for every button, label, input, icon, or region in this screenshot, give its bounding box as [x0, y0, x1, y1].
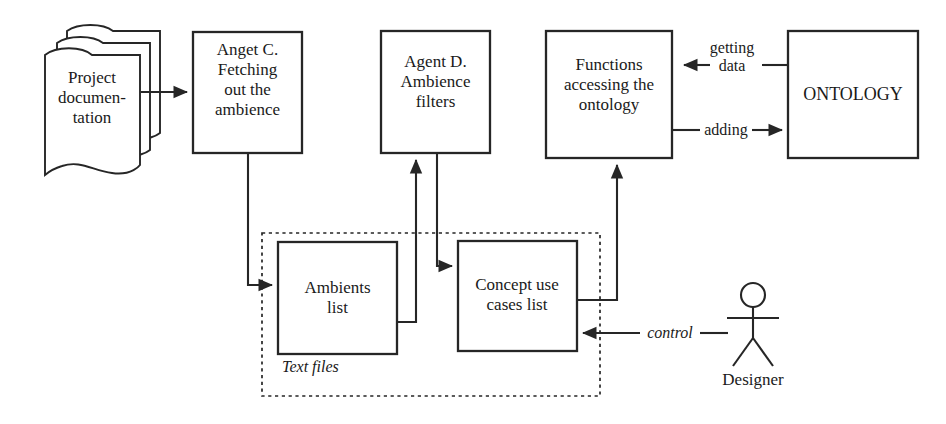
hit-project-documentation[interactable] [45, 23, 160, 178]
hit-designer[interactable] [725, 282, 783, 372]
hit-agent-d[interactable] [381, 31, 490, 153]
getting-data-line-1: getting [692, 39, 772, 57]
edge-label-adding: adding [694, 121, 758, 139]
hit-agent-c[interactable] [193, 32, 302, 153]
node-designer-label: Designer [703, 370, 803, 390]
hit-concept-use-cases[interactable] [458, 241, 577, 351]
group-text-files-label: Text files [282, 358, 339, 376]
hit-functions[interactable] [546, 31, 672, 158]
edge-label-control: control [632, 324, 708, 342]
hit-ambients-list[interactable] [278, 242, 397, 354]
edge-agentc-to-ambients [248, 154, 272, 285]
edge-label-getting-data: getting data [692, 39, 772, 75]
edge-ambients-to-agentd [398, 160, 416, 322]
hit-ontology[interactable] [788, 31, 918, 158]
edge-agentd-to-concept [437, 154, 452, 266]
getting-data-line-2: data [692, 57, 772, 75]
